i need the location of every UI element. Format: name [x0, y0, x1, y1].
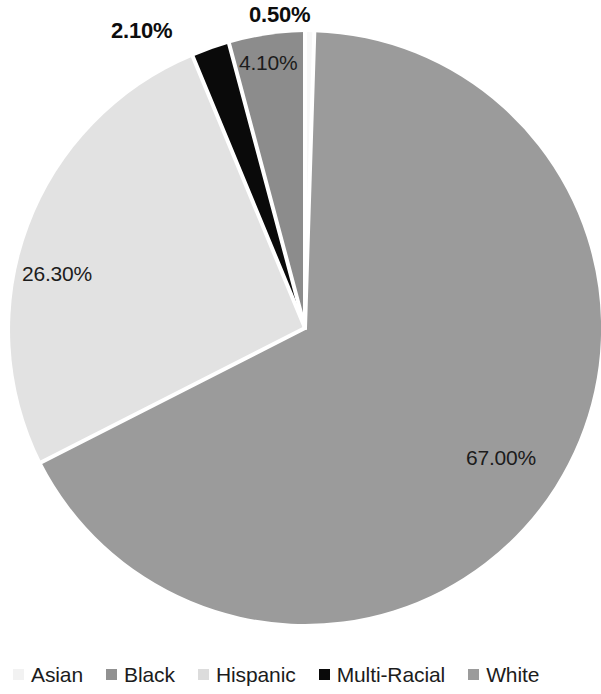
legend-label-hispanic: Hispanic [216, 664, 296, 685]
legend-swatch-white-icon [468, 669, 479, 680]
legend-label-multi-racial: Multi-Racial [337, 664, 446, 685]
data-label-asian: 0.50% [249, 4, 310, 26]
legend-item-white[interactable]: White [468, 664, 539, 685]
legend-swatch-hispanic-icon [198, 669, 209, 680]
data-label-hispanic: 26.30% [22, 263, 92, 284]
legend-label-asian: Asian [31, 664, 83, 685]
legend-label-white: White [486, 664, 539, 685]
legend-swatch-multi-racial-icon [319, 669, 330, 680]
data-label-white: 67.00% [466, 447, 536, 468]
legend-item-asian[interactable]: Asian [13, 664, 83, 685]
legend-item-hispanic[interactable]: Hispanic [198, 664, 296, 685]
chart-plot-area: 0.50% 2.10% 4.10% 26.30% 67.00% [0, 0, 601, 640]
data-label-multi-racial: 2.10% [111, 20, 172, 42]
legend-swatch-black-icon [106, 669, 117, 680]
pie-chart: 0.50% 2.10% 4.10% 26.30% 67.00% Asian Bl… [0, 0, 601, 694]
legend-label-black: Black [124, 664, 175, 685]
legend-swatch-asian-icon [13, 669, 24, 680]
chart-legend: Asian Black Hispanic Multi-Racial White [0, 655, 601, 694]
legend-item-multi-racial[interactable]: Multi-Racial [319, 664, 446, 685]
data-label-black: 4.10% [239, 52, 298, 73]
pie-svg [0, 0, 601, 640]
legend-item-black[interactable]: Black [106, 664, 175, 685]
